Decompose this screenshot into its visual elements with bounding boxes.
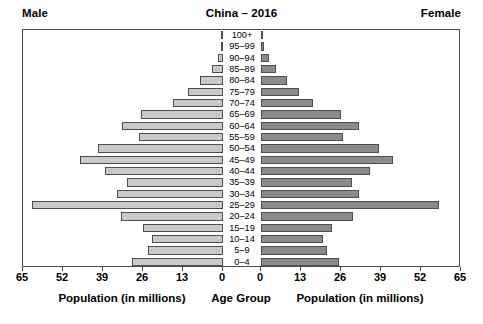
chart-title: China – 2016 bbox=[0, 7, 483, 19]
female-bar[interactable] bbox=[261, 246, 327, 254]
age-group-label: 95–99 bbox=[223, 41, 261, 52]
age-group-row: 10–14 bbox=[223, 234, 261, 245]
female-bar[interactable] bbox=[261, 258, 339, 266]
axis-tick-label: 13 bbox=[176, 271, 188, 283]
left-axis-title: Population (in millions) bbox=[58, 292, 185, 304]
age-group-row: 85–89 bbox=[223, 64, 261, 75]
male-bar-row bbox=[23, 189, 223, 200]
female-bar-row bbox=[261, 234, 461, 245]
female-bar[interactable] bbox=[261, 224, 332, 232]
female-bar[interactable] bbox=[261, 201, 439, 209]
age-group-label: 80–84 bbox=[223, 75, 261, 86]
age-group-row: 35–39 bbox=[223, 177, 261, 188]
female-bar-row bbox=[261, 177, 461, 188]
age-group-row: 60–64 bbox=[223, 121, 261, 132]
female-bar-row bbox=[261, 143, 461, 154]
male-bar-row bbox=[23, 64, 223, 75]
age-group-label: 70–74 bbox=[223, 98, 261, 109]
male-bar-row bbox=[23, 53, 223, 64]
age-group-label: 5–9 bbox=[223, 245, 261, 256]
age-group-row: 0–4 bbox=[223, 257, 261, 268]
axis-tick-label: 0 bbox=[219, 271, 225, 283]
female-bars-panel bbox=[261, 30, 461, 266]
age-group-label: 75–79 bbox=[223, 87, 261, 98]
axis-tick-label: 52 bbox=[414, 271, 426, 283]
female-bar[interactable] bbox=[261, 190, 359, 198]
male-bar[interactable] bbox=[98, 144, 223, 152]
axis-tick-label: 0 bbox=[257, 271, 263, 283]
female-bar[interactable] bbox=[261, 42, 264, 50]
male-bar[interactable] bbox=[139, 133, 223, 141]
female-bar-row bbox=[261, 223, 461, 234]
age-group-row: 70–74 bbox=[223, 98, 261, 109]
female-bar-row bbox=[261, 189, 461, 200]
age-group-row: 50–54 bbox=[223, 143, 261, 154]
female-bar-row bbox=[261, 87, 461, 98]
male-bar[interactable] bbox=[122, 122, 223, 130]
male-bar[interactable] bbox=[200, 76, 223, 84]
age-group-row: 75–79 bbox=[223, 87, 261, 98]
male-bar-row bbox=[23, 257, 223, 268]
male-bar[interactable] bbox=[132, 258, 223, 266]
female-bar[interactable] bbox=[261, 76, 287, 84]
male-bar[interactable] bbox=[143, 224, 223, 232]
age-group-label: 60–64 bbox=[223, 121, 261, 132]
male-bar[interactable] bbox=[127, 178, 223, 186]
female-bar[interactable] bbox=[261, 31, 263, 39]
female-bar-row bbox=[261, 200, 461, 211]
female-bar-row bbox=[261, 30, 461, 41]
female-bar[interactable] bbox=[261, 144, 379, 152]
axis-tick-label: 39 bbox=[96, 271, 108, 283]
male-bar[interactable] bbox=[141, 110, 223, 118]
male-bar-row bbox=[23, 211, 223, 222]
age-group-label: 35–39 bbox=[223, 177, 261, 188]
female-bar-row bbox=[261, 41, 461, 52]
male-bar[interactable] bbox=[152, 235, 223, 243]
age-group-row: 5–9 bbox=[223, 245, 261, 256]
male-bar[interactable] bbox=[117, 190, 223, 198]
female-bar[interactable] bbox=[261, 88, 299, 96]
male-bar[interactable] bbox=[80, 156, 223, 164]
female-bar-row bbox=[261, 98, 461, 109]
age-group-row: 30–34 bbox=[223, 189, 261, 200]
female-bar[interactable] bbox=[261, 178, 352, 186]
female-bar[interactable] bbox=[261, 122, 359, 130]
female-bar[interactable] bbox=[261, 235, 323, 243]
axis-tick-label: 52 bbox=[56, 271, 68, 283]
male-bar[interactable] bbox=[105, 167, 223, 175]
male-bar[interactable] bbox=[188, 88, 223, 96]
male-bar[interactable] bbox=[173, 99, 223, 107]
age-group-label: 0–4 bbox=[223, 257, 261, 268]
male-bar-row bbox=[23, 245, 223, 256]
female-bar[interactable] bbox=[261, 99, 313, 107]
male-bar[interactable] bbox=[212, 65, 223, 73]
age-group-label: 100+ bbox=[223, 30, 261, 41]
male-bar-row bbox=[23, 132, 223, 143]
age-group-row: 20–24 bbox=[223, 211, 261, 222]
female-bar-row bbox=[261, 211, 461, 222]
age-group-row: 15–19 bbox=[223, 223, 261, 234]
age-group-row: 80–84 bbox=[223, 75, 261, 86]
male-bar[interactable] bbox=[148, 246, 223, 254]
female-bar[interactable] bbox=[261, 167, 370, 175]
age-group-row: 25–29 bbox=[223, 200, 261, 211]
plot-frame: 100+95–9990–9485–8980–8475–7970–7465–696… bbox=[22, 29, 460, 267]
male-bar[interactable] bbox=[121, 212, 223, 220]
age-group-label: 15–19 bbox=[223, 223, 261, 234]
female-bar-row bbox=[261, 53, 461, 64]
female-side-label: Female bbox=[421, 7, 461, 19]
age-group-label: 55–59 bbox=[223, 132, 261, 143]
male-bar[interactable] bbox=[32, 201, 223, 209]
female-bar[interactable] bbox=[261, 54, 269, 62]
female-bar[interactable] bbox=[261, 110, 341, 118]
male-bar-row bbox=[23, 155, 223, 166]
female-bar-row bbox=[261, 132, 461, 143]
male-bar-row bbox=[23, 121, 223, 132]
female-bar[interactable] bbox=[261, 65, 276, 73]
female-bar[interactable] bbox=[261, 156, 393, 164]
female-bar-row bbox=[261, 155, 461, 166]
female-bar[interactable] bbox=[261, 133, 343, 141]
female-bar[interactable] bbox=[261, 212, 353, 220]
population-pyramid-chart: Male China – 2016 Female 100+95–9990–948… bbox=[0, 0, 483, 324]
male-bar-row bbox=[23, 30, 223, 41]
